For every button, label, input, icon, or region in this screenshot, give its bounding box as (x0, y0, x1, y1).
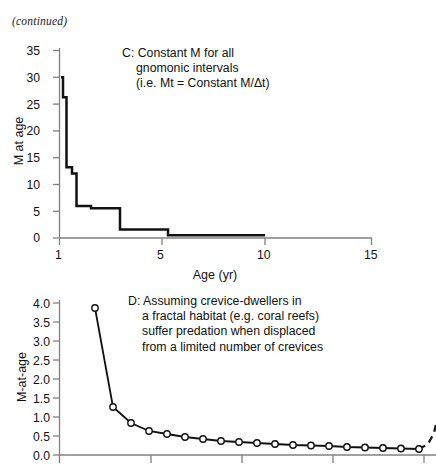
panel-c-xtick-5: 5 (157, 248, 164, 262)
panel-c-step-series (61, 77, 265, 235)
panel-c-x-axis-title: Age (yr) (150, 268, 280, 282)
panel-d: D: Assuming crevice-dwellers in a fracta… (0, 292, 436, 464)
panel-c-y-ticks (53, 51, 60, 239)
panel-d-y-ticks (53, 303, 60, 455)
panel-d-x-ticks (60, 455, 425, 463)
panel-d-series-line (95, 308, 419, 449)
panel-c-x-ticks (60, 238, 372, 245)
panel-d-dashed-tail (419, 424, 436, 449)
continued-note: (continued) (12, 15, 67, 27)
panel-c-xtick-10: 10 (257, 248, 271, 262)
clipped-header-fragment (60, 0, 400, 4)
panel-c: C: Constant M for all gnomonic intervals… (0, 40, 436, 290)
panel-d-plot (0, 292, 436, 464)
figure-page: (continued) C: Constant M for all gnomon… (0, 0, 436, 464)
panel-c-xtick-1: 1 (55, 248, 62, 262)
panel-c-xtick-15: 15 (364, 248, 378, 262)
panel-d-markers (92, 305, 422, 452)
